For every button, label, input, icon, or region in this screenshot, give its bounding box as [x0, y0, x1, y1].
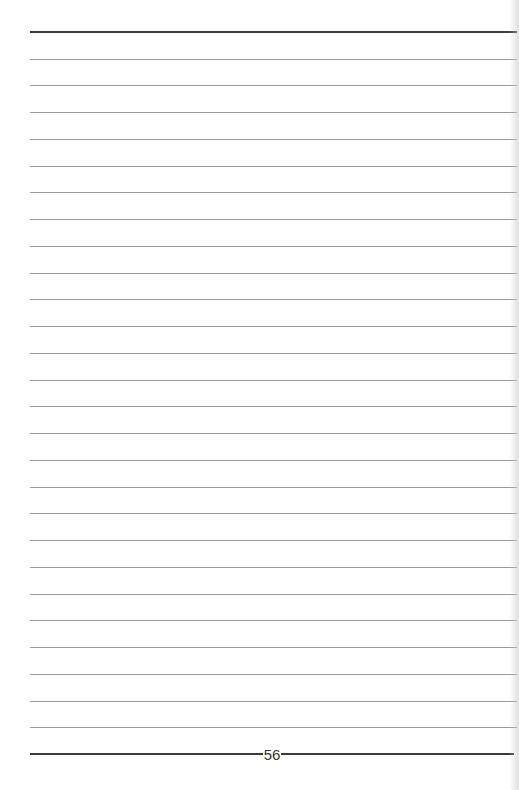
writing-line — [30, 567, 517, 568]
writing-line — [30, 701, 517, 702]
writing-line — [30, 112, 517, 113]
writing-line — [30, 540, 517, 541]
writing-line — [30, 433, 517, 434]
writing-line — [30, 326, 517, 327]
writing-line — [30, 513, 517, 514]
writing-line — [30, 139, 517, 140]
writing-line — [30, 727, 517, 728]
writing-line — [30, 647, 517, 648]
writing-line — [30, 219, 517, 220]
writing-line — [30, 380, 517, 381]
writing-line — [30, 406, 517, 407]
writing-line — [30, 674, 517, 675]
notebook-page: 56 — [0, 0, 519, 790]
bottom-rule-left-segment — [30, 753, 263, 755]
writing-line — [30, 246, 517, 247]
writing-line — [30, 85, 517, 86]
writing-line — [30, 353, 517, 354]
writing-line — [30, 299, 517, 300]
writing-line — [30, 273, 517, 274]
writing-line — [30, 192, 517, 193]
page-number: 56 — [263, 747, 282, 762]
writing-line — [30, 487, 517, 488]
top-border-rule — [30, 31, 517, 33]
bottom-rule-right-segment — [281, 753, 514, 755]
page-edge-shadow — [509, 0, 519, 790]
writing-line — [30, 594, 517, 595]
writing-line — [30, 59, 517, 60]
writing-line — [30, 166, 517, 167]
bottom-border-rule: 56 — [30, 753, 514, 755]
writing-line — [30, 620, 517, 621]
writing-line — [30, 460, 517, 461]
